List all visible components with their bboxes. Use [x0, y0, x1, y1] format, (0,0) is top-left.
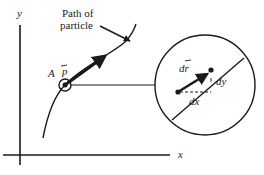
displacement-vector-arrow	[178, 74, 207, 92]
magnified-view-circle	[155, 35, 255, 135]
path-label-line1: Path of	[62, 7, 94, 19]
particle-path-diagram: y x Path of particle p A dx dy dr	[0, 0, 264, 175]
point-a-label: A	[47, 67, 55, 79]
x-axis-label: x	[177, 148, 183, 160]
y-axis-label: y	[16, 7, 22, 19]
path-label-line2: particle	[60, 19, 93, 31]
dx-label: dx	[189, 95, 200, 107]
point-a-dot	[63, 83, 68, 88]
path-pointer-arrow	[100, 26, 130, 41]
magnified-end-dot	[208, 67, 213, 72]
dy-label: dy	[216, 75, 227, 87]
momentum-vector-arrow	[65, 56, 105, 85]
particle-path-curve	[43, 24, 136, 138]
magnified-start-dot	[175, 89, 180, 94]
displacement-vector-label: dr	[179, 62, 190, 74]
momentum-vector-label: p	[61, 65, 68, 77]
displacement-vector-label-arrow	[185, 60, 191, 61]
